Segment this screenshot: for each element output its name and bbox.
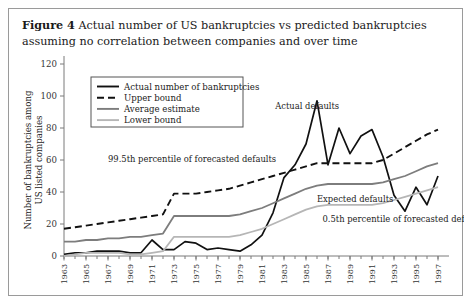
y-axis-title: Number of bankruptcies amongUS listed co… <box>23 90 44 229</box>
y-axis: 020406080100120 <box>41 56 64 261</box>
y-tick-label: 40 <box>46 187 57 197</box>
x-tick-label: 1985 <box>302 264 311 284</box>
legend-label-upper: Upper bound <box>124 93 182 103</box>
x-tick-label: 1971 <box>148 264 157 284</box>
x-tick-label: 1977 <box>214 264 223 284</box>
x-tick-label: 1963 <box>60 264 69 284</box>
legend-label-actual: Actual number of bankruptcies <box>123 82 259 92</box>
x-tick-label: 1969 <box>126 264 135 284</box>
annotation-label: 0.5th percentile of forecasted defaults <box>323 214 465 224</box>
annotation-label: Expected defaults <box>317 194 393 204</box>
x-tick-label: 1965 <box>82 264 91 284</box>
y-tick-label: 60 <box>46 155 57 165</box>
x-tick-label: 1997 <box>434 264 443 284</box>
annotation-label: 99.5th percentile of forecasted defaults <box>108 154 276 164</box>
x-tick-label: 1981 <box>258 264 267 284</box>
y-axis-title-line: Number of bankruptcies among <box>23 90 33 229</box>
x-tick-label: 1989 <box>346 264 355 284</box>
y-axis-title-line: US listed companies <box>34 115 44 204</box>
x-tick-label: 1983 <box>280 264 289 284</box>
figure-card: Figure 4 Actual number of US bankruptcie… <box>8 8 463 296</box>
x-tick-label: 1975 <box>192 264 201 284</box>
x-tick-label: 1979 <box>236 264 245 284</box>
x-tick-label: 1973 <box>170 264 179 284</box>
legend-label-average: Average estimate <box>123 104 200 114</box>
y-tick-label: 100 <box>41 91 57 101</box>
y-tick-label: 80 <box>46 123 57 133</box>
x-tick-label: 1995 <box>412 264 421 284</box>
y-tick-label: 20 <box>46 219 57 229</box>
y-tick-label: 0 <box>52 251 57 261</box>
bankruptcy-line-chart: 020406080100120 196319651967196919711973… <box>9 9 464 297</box>
legend-label-lower: Lower bound <box>124 115 182 125</box>
x-axis: 1963196519671969197119731975197719791981… <box>60 256 449 284</box>
annotation-label: Actual defaults <box>274 101 339 111</box>
x-tick-label: 1993 <box>390 264 399 284</box>
y-tick-label: 120 <box>41 59 57 69</box>
x-tick-label: 1987 <box>324 264 333 284</box>
x-tick-label: 1967 <box>104 264 113 284</box>
chart-legend: Actual number of bankruptciesUpper bound… <box>91 77 259 127</box>
chart-plot-area: 020406080100120 196319651967196919711973… <box>9 9 464 297</box>
x-tick-label: 1991 <box>368 264 377 284</box>
